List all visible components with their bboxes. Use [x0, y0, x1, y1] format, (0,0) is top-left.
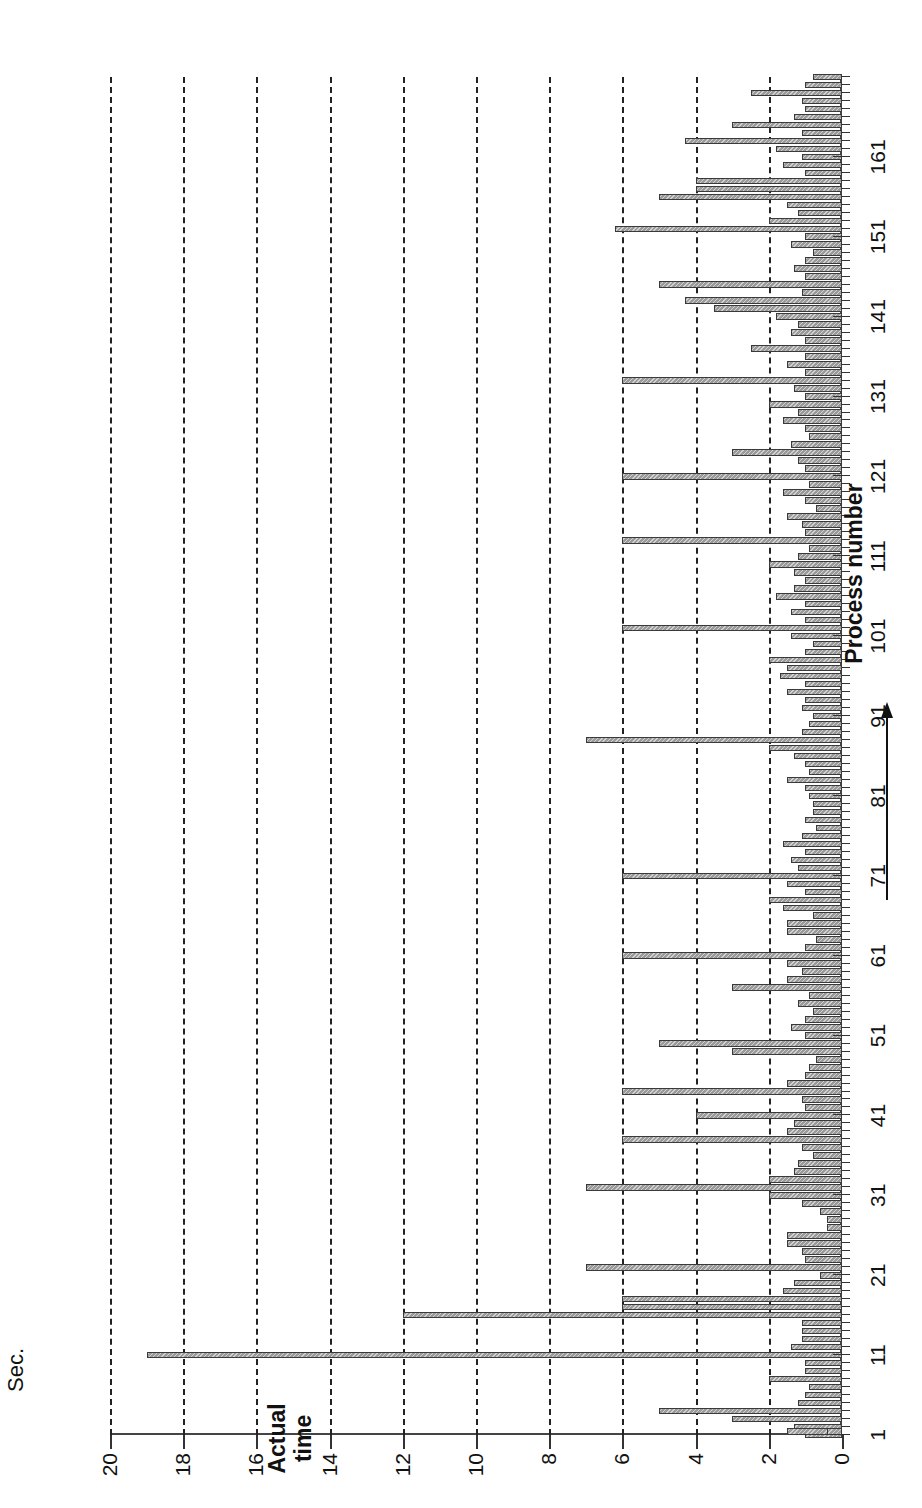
category-axis-tick-label: 41	[867, 1085, 888, 1145]
bar	[794, 569, 842, 576]
bar	[794, 114, 842, 121]
category-axis-major-tick	[833, 156, 850, 157]
category-axis-minor-tick	[842, 92, 850, 93]
category-axis-minor-tick	[842, 1242, 850, 1243]
bar	[805, 849, 842, 856]
bar	[805, 1032, 842, 1039]
category-axis-tick-label: 101	[867, 606, 888, 666]
bar	[809, 545, 842, 552]
category-axis-minor-tick	[842, 963, 850, 964]
category-axis-major-tick	[833, 875, 850, 876]
bar	[798, 321, 842, 328]
category-axis-minor-tick	[842, 787, 850, 788]
gridline	[256, 77, 258, 1435]
category-axis-minor-tick	[842, 923, 850, 924]
bar	[798, 1000, 842, 1007]
category-axis-minor-tick	[842, 451, 850, 452]
value-axis-tick-label: 14	[319, 1453, 340, 1501]
category-axis-minor-tick	[842, 1234, 850, 1235]
category-axis-minor-tick	[842, 827, 850, 828]
bar	[802, 1320, 842, 1327]
bar	[805, 761, 842, 768]
category-axis-minor-tick	[842, 803, 850, 804]
category-axis-minor-tick	[842, 907, 850, 908]
bar	[732, 1416, 842, 1423]
value-axis-tick-label: 4	[685, 1453, 706, 1501]
category-axis-minor-tick	[842, 1027, 850, 1028]
bar	[802, 705, 842, 712]
value-axis-tick-label: 2	[758, 1453, 779, 1501]
bar	[696, 186, 842, 193]
category-axis-minor-tick	[842, 356, 850, 357]
category-axis-minor-tick	[842, 763, 850, 764]
category-axis-tick-label: 61	[867, 926, 888, 986]
category-axis-tick-label: 51	[867, 1006, 888, 1066]
category-axis-minor-tick	[842, 979, 850, 980]
bar	[805, 1392, 842, 1399]
bar	[816, 825, 842, 832]
bar	[805, 944, 842, 951]
category-axis-minor-tick	[842, 467, 850, 468]
bar	[147, 1352, 842, 1359]
bar	[802, 98, 842, 105]
category-axis-minor-tick	[842, 148, 850, 149]
category-axis-minor-tick	[842, 1154, 850, 1155]
category-axis-tick-label: 31	[867, 1165, 888, 1225]
category-axis-minor-tick	[842, 867, 850, 868]
category-axis-minor-tick	[842, 1130, 850, 1131]
bar	[802, 833, 842, 840]
category-axis-minor-tick	[842, 443, 850, 444]
bar	[622, 1304, 842, 1311]
bar	[813, 801, 842, 808]
category-axis-minor-tick	[842, 1099, 850, 1100]
bar	[787, 976, 842, 983]
category-axis-minor-tick	[842, 1338, 850, 1339]
bar	[798, 1400, 842, 1407]
bar	[813, 641, 842, 648]
value-axis-tick-label: 20	[99, 1453, 120, 1501]
value-axis-tick	[622, 1435, 624, 1449]
category-axis-minor-tick	[842, 108, 850, 109]
category-axis-minor-tick	[842, 100, 850, 101]
bar	[805, 369, 842, 376]
category-axis-minor-tick	[842, 1394, 850, 1395]
category-axis-tick-label: 1	[867, 1405, 888, 1465]
category-axis-minor-tick	[842, 747, 850, 748]
value-axis-tick-label: 8	[538, 1453, 559, 1501]
gridline	[330, 77, 332, 1435]
category-axis-major-tick	[833, 1354, 850, 1355]
category-axis-major-tick	[833, 1434, 850, 1435]
bar	[783, 905, 842, 912]
category-axis-minor-tick	[842, 244, 850, 245]
category-axis-tick-label: 11	[867, 1325, 888, 1385]
category-axis-major-tick	[833, 475, 850, 476]
category-axis-minor-tick	[842, 252, 850, 253]
category-axis-minor-tick	[842, 332, 850, 333]
category-axis-tick-label: 21	[867, 1245, 888, 1305]
bar	[622, 625, 842, 632]
bar	[791, 1024, 842, 1031]
bar	[622, 952, 842, 959]
bar	[732, 449, 842, 456]
category-axis-minor-tick	[842, 1138, 850, 1139]
bar	[809, 433, 842, 440]
bar	[805, 889, 842, 896]
bar	[809, 721, 842, 728]
category-axis-minor-tick	[842, 276, 850, 277]
bar	[791, 609, 842, 616]
value-axis-tick	[256, 1435, 258, 1449]
category-axis-minor-tick	[842, 348, 850, 349]
bar	[732, 984, 842, 991]
category-axis-minor-tick	[842, 1043, 850, 1044]
category-axis-minor-tick	[842, 1170, 850, 1171]
category-axis-minor-tick	[842, 931, 850, 932]
bar	[696, 178, 842, 185]
bar	[787, 361, 842, 368]
category-axis-minor-tick	[842, 1226, 850, 1227]
category-axis-minor-tick	[842, 340, 850, 341]
category-axis-minor-tick	[842, 196, 850, 197]
bar	[787, 513, 842, 520]
bar	[659, 1040, 842, 1047]
category-axis-minor-tick	[842, 412, 850, 413]
category-axis-minor-tick	[842, 220, 850, 221]
